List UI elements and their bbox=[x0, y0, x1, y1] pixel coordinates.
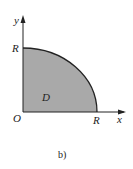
x-axis-label: x bbox=[116, 113, 122, 125]
quarter-disc-diagram: y R D O R x b) bbox=[0, 0, 133, 169]
y-axis-arrow-icon bbox=[21, 15, 26, 23]
figure-caption: b) bbox=[58, 149, 66, 161]
origin-label: O bbox=[13, 112, 21, 124]
y-axis-label: y bbox=[13, 14, 19, 26]
y-intercept-label: R bbox=[11, 42, 19, 54]
x-intercept-label: R bbox=[92, 114, 100, 126]
region-d-shading bbox=[23, 48, 97, 112]
region-label: D bbox=[41, 91, 50, 103]
